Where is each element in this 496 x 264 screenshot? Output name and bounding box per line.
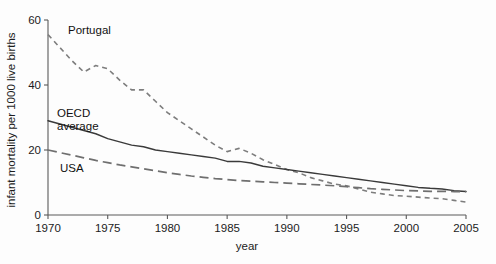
x-tick-label: 1970 bbox=[35, 222, 61, 234]
x-tick-label: 1980 bbox=[155, 222, 181, 234]
series-label-oecd-line2: average bbox=[57, 120, 99, 132]
y-tick-label: 60 bbox=[28, 14, 41, 26]
x-tick-label: 1990 bbox=[274, 222, 300, 234]
y-tick-label: 40 bbox=[28, 79, 41, 91]
y-axis-ticks: 0204060 bbox=[28, 14, 48, 221]
x-tick-label: 1975 bbox=[95, 222, 121, 234]
series-label-portugal: Portugal bbox=[68, 24, 111, 36]
y-axis-title: infant mortality per 1000 live births bbox=[5, 32, 17, 207]
series-label-usa: USA bbox=[60, 162, 84, 174]
x-tick-label: 1995 bbox=[334, 222, 360, 234]
x-tick-label: 1985 bbox=[214, 222, 240, 234]
x-axis-title: year bbox=[236, 240, 259, 252]
line-chart-svg: infant mortality per 1000 live births 02… bbox=[0, 0, 496, 264]
x-tick-label: 2005 bbox=[453, 222, 479, 234]
y-tick-label: 0 bbox=[35, 209, 41, 221]
series-line-portugal bbox=[48, 35, 466, 202]
data-series-group bbox=[48, 35, 466, 202]
y-tick-label: 20 bbox=[28, 144, 41, 156]
x-axis-ticks: 19701975198019851990199520002005 bbox=[35, 215, 479, 234]
x-tick-label: 2000 bbox=[393, 222, 419, 234]
series-label-oecd-line1: OECD bbox=[57, 107, 90, 119]
chart-container: infant mortality per 1000 live births 02… bbox=[0, 0, 496, 264]
